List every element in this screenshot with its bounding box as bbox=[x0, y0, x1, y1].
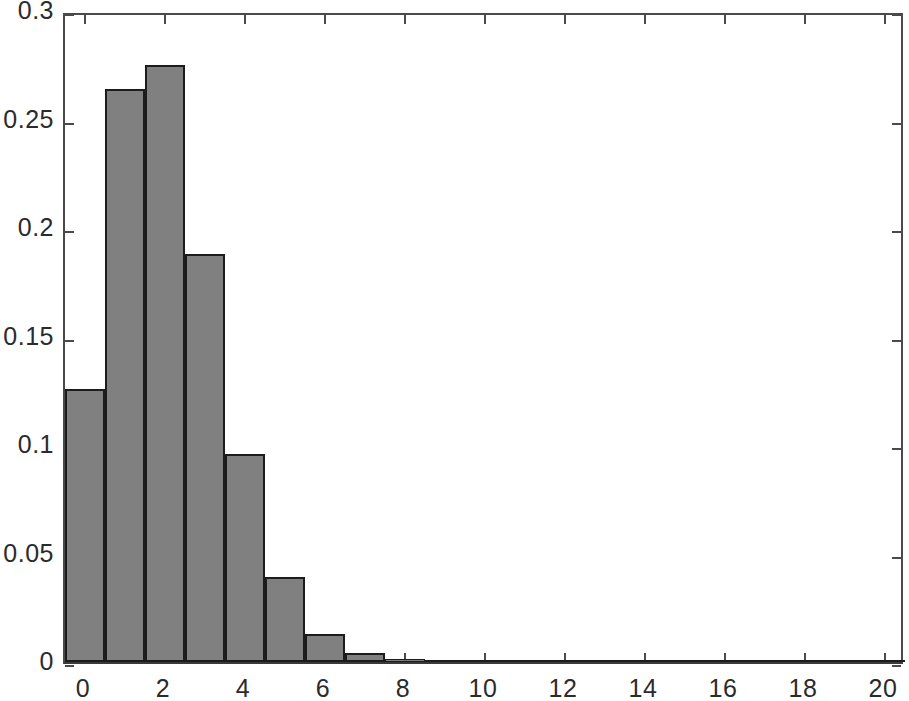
bar bbox=[305, 634, 345, 662]
bar bbox=[665, 660, 705, 663]
plot-area bbox=[63, 13, 903, 664]
y-tick-label: 0 bbox=[40, 647, 54, 676]
bar bbox=[465, 660, 505, 663]
x-tick-label: 10 bbox=[469, 674, 498, 701]
bar bbox=[425, 660, 465, 663]
bar bbox=[265, 577, 305, 662]
y-tick-label: 0.15 bbox=[3, 322, 54, 351]
bar-series bbox=[65, 15, 901, 662]
y-tick-label: 0.3 bbox=[18, 0, 54, 25]
bar bbox=[385, 659, 425, 662]
bar bbox=[505, 660, 545, 663]
bar bbox=[105, 89, 145, 662]
x-tick-label: 16 bbox=[709, 674, 738, 701]
bar bbox=[145, 65, 185, 662]
bar bbox=[865, 660, 905, 663]
bar bbox=[585, 660, 625, 663]
x-tick-label: 2 bbox=[156, 674, 170, 701]
bar bbox=[225, 454, 265, 662]
y-tick-label: 0.1 bbox=[18, 430, 54, 459]
x-tick-label: 0 bbox=[76, 674, 90, 701]
x-tick-label: 18 bbox=[789, 674, 818, 701]
bar bbox=[745, 660, 785, 663]
x-tick-label: 6 bbox=[316, 674, 330, 701]
bar bbox=[65, 389, 105, 662]
bar bbox=[345, 653, 385, 662]
x-tick-label: 4 bbox=[236, 674, 250, 701]
bar bbox=[185, 254, 225, 662]
x-tick-label: 14 bbox=[629, 674, 658, 701]
y-tick-mark bbox=[892, 665, 901, 667]
bar bbox=[785, 660, 825, 663]
bar bbox=[705, 660, 745, 663]
y-tick-label: 0.25 bbox=[3, 105, 54, 134]
y-tick-label: 0.05 bbox=[3, 539, 54, 568]
x-tick-label: 12 bbox=[549, 674, 578, 701]
y-tick-label: 0.2 bbox=[18, 213, 54, 242]
bar bbox=[825, 660, 865, 663]
y-tick-mark bbox=[65, 665, 74, 667]
x-tick-label: 20 bbox=[869, 674, 898, 701]
bar bbox=[625, 660, 665, 663]
bar bbox=[545, 660, 585, 663]
x-tick-label: 8 bbox=[396, 674, 410, 701]
